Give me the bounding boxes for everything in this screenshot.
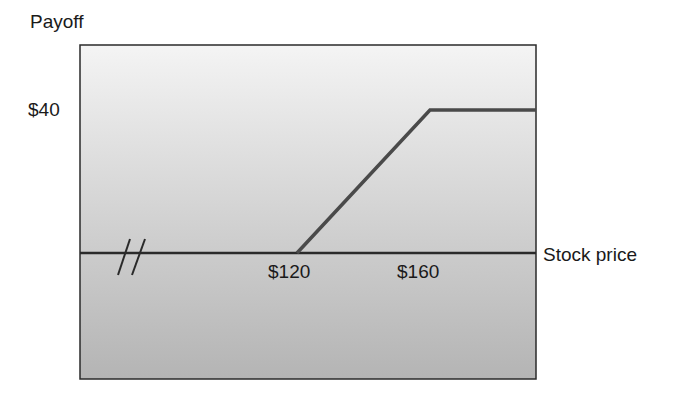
y-axis-label: Payoff (30, 12, 84, 31)
chart-plot (0, 0, 695, 401)
x-axis-label: Stock price (543, 245, 637, 264)
x-tick-label-160: $160 (397, 262, 439, 281)
x-tick-label-120: $120 (268, 262, 310, 281)
plot-area (80, 45, 536, 379)
y-tick-label-40: $40 (28, 100, 60, 119)
